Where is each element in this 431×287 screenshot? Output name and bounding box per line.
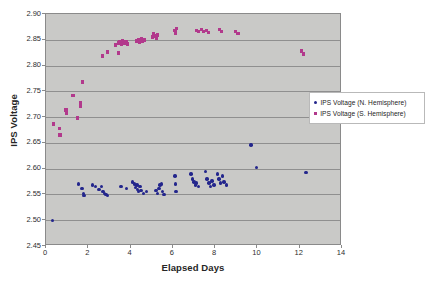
data-point: [216, 172, 219, 175]
x-axis-tick-label: 10: [243, 248, 269, 257]
y-axis-tick-label: 2.50: [1, 215, 41, 224]
data-point: [162, 193, 165, 196]
data-point: [175, 27, 178, 31]
data-point: [304, 171, 307, 174]
data-point: [210, 179, 213, 182]
data-point: [221, 174, 224, 177]
data-point: [76, 116, 79, 120]
legend-label-n-hemisphere: IPS Voltage (N. Hemisphere): [320, 99, 406, 106]
x-axis-tick-label: 0: [32, 248, 58, 257]
data-point: [197, 185, 200, 188]
data-point: [207, 31, 210, 35]
data-point: [106, 194, 109, 197]
data-point: [77, 182, 80, 185]
legend-marker-circle-icon: [314, 101, 317, 104]
data-point: [101, 54, 104, 58]
data-point: [51, 219, 54, 222]
y-axis-tick-label: 2.60: [1, 163, 41, 172]
y-axis-tick-label: 2.80: [1, 60, 41, 69]
data-point: [119, 185, 122, 188]
data-point: [58, 127, 61, 131]
x-axis-tick-mark: [256, 245, 257, 248]
data-point: [174, 182, 177, 185]
x-axis-tick-mark: [299, 245, 300, 248]
data-point: [80, 187, 83, 190]
data-point: [236, 32, 239, 36]
gridline: [46, 220, 340, 221]
x-axis-tick-mark: [87, 245, 88, 248]
data-point: [156, 33, 159, 37]
data-point: [249, 143, 252, 146]
gridline: [46, 91, 340, 92]
gridline: [46, 66, 340, 67]
data-point: [220, 30, 223, 34]
data-point: [97, 188, 100, 191]
x-axis-tick-label: 12: [286, 248, 312, 257]
data-point: [174, 190, 177, 193]
data-point: [302, 52, 305, 56]
data-point: [81, 80, 84, 84]
y-axis-tick-label: 2.75: [1, 86, 41, 95]
data-point: [71, 94, 74, 98]
data-point: [205, 177, 208, 180]
y-axis-tick-label: 2.90: [1, 9, 41, 18]
x-axis-tick-mark: [172, 245, 173, 248]
data-point: [189, 172, 192, 175]
data-point: [100, 185, 103, 188]
data-point: [173, 174, 176, 177]
legend-item-s-hemisphere: IPS Voltage (S. Hemisphere): [314, 108, 421, 119]
x-axis-tick-label: 6: [159, 248, 185, 257]
data-point: [125, 187, 128, 190]
x-axis-tick-mark: [45, 245, 46, 248]
x-axis-tick-mark: [214, 245, 215, 248]
gridline: [46, 169, 340, 170]
data-point: [225, 183, 228, 186]
y-axis-tick-label: 2.65: [1, 137, 41, 146]
data-point: [204, 170, 207, 173]
data-point: [160, 182, 163, 185]
data-point: [52, 122, 55, 126]
x-axis-tick-label: 8: [201, 248, 227, 257]
data-point: [65, 111, 68, 115]
gridline: [46, 40, 340, 41]
data-point: [174, 32, 177, 36]
y-axis-tick-label: 2.55: [1, 189, 41, 198]
plot-area: [45, 13, 341, 245]
gridline: [46, 194, 340, 195]
legend-label-s-hemisphere: IPS Voltage (S. Hemisphere): [320, 110, 406, 117]
data-point: [117, 51, 120, 55]
data-point: [58, 133, 61, 137]
scatter-chart: IPS Voltage 2.452.502.552.602.652.702.75…: [0, 0, 431, 287]
data-point: [126, 42, 129, 46]
data-point: [157, 187, 160, 190]
data-point: [79, 104, 82, 108]
legend-item-n-hemisphere: IPS Voltage (N. Hemisphere): [314, 97, 421, 108]
legend-marker-square-icon: [314, 112, 317, 116]
data-point: [106, 50, 109, 54]
x-axis-tick-mark: [130, 245, 131, 248]
data-point: [82, 194, 85, 197]
x-axis-tick-label: 4: [117, 248, 143, 257]
y-axis-tick-label: 2.85: [1, 34, 41, 43]
gridline: [46, 143, 340, 144]
data-point: [138, 185, 141, 188]
data-point: [217, 177, 220, 180]
x-axis-tick-label: 14: [328, 248, 354, 257]
data-point: [145, 190, 148, 193]
chart-legend: IPS Voltage (N. Hemisphere) IPS Voltage …: [309, 92, 425, 124]
x-axis-tick-mark: [341, 245, 342, 248]
data-point: [212, 183, 215, 186]
y-axis-tick-label: 2.70: [1, 112, 41, 121]
gridline: [46, 117, 340, 118]
data-point: [143, 38, 146, 42]
x-axis-tick-label: 2: [74, 248, 100, 257]
x-axis-title: Elapsed Days: [45, 262, 341, 273]
